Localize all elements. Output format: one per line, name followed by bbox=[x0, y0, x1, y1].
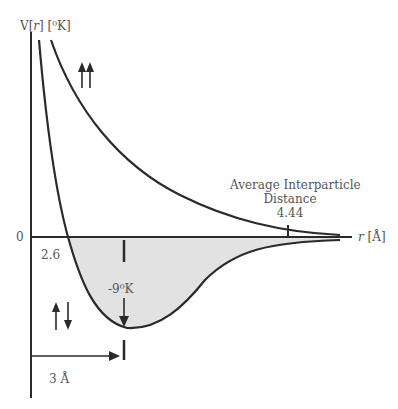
y-axis-label: V[r] [⁰K] bbox=[20, 19, 71, 33]
well-depth-label: -9⁰K bbox=[108, 282, 133, 296]
avg-distance-label: Average Interparticle Distance 4.44 bbox=[230, 178, 350, 220]
zero-label: 0 bbox=[16, 230, 24, 244]
min-distance-label: 3 Å bbox=[49, 372, 69, 386]
distance-arrowhead bbox=[109, 351, 120, 361]
x-axis-label: r [Å] bbox=[358, 230, 386, 244]
potential-diagram: V[r] [⁰K] 0 2.6 r [Å] Average Interparti… bbox=[0, 0, 398, 409]
zero-crossing-label: 2.6 bbox=[41, 248, 60, 262]
